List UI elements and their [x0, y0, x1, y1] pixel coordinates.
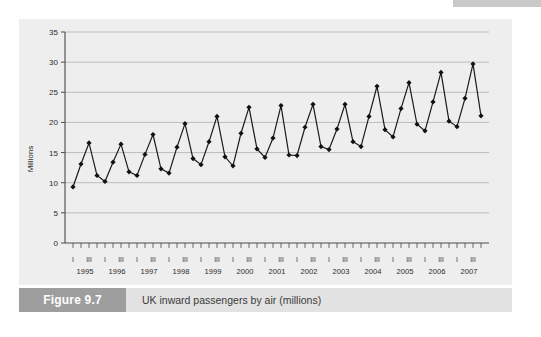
svg-text:I: I: [360, 256, 362, 263]
data-series-markers: [70, 61, 483, 189]
svg-text:III: III: [246, 256, 252, 263]
svg-text:III: III: [86, 256, 92, 263]
svg-text:III: III: [214, 256, 220, 263]
svg-text:20: 20: [49, 118, 58, 127]
svg-text:III: III: [470, 256, 476, 263]
svg-text:I: I: [136, 256, 138, 263]
svg-text:0: 0: [54, 239, 59, 248]
chart-plot-panel: 05101520253035 Millions IIIIIIIIIIIIIIII…: [19, 19, 512, 285]
svg-text:2002: 2002: [301, 267, 318, 276]
svg-text:2005: 2005: [397, 267, 414, 276]
svg-text:I: I: [232, 256, 234, 263]
svg-text:15: 15: [49, 149, 58, 158]
svg-text:2001: 2001: [269, 267, 286, 276]
svg-text:III: III: [278, 256, 284, 263]
svg-text:1997: 1997: [141, 267, 158, 276]
svg-text:1995: 1995: [77, 267, 94, 276]
svg-text:III: III: [438, 256, 444, 263]
y-axis-tick-labels: 05101520253035: [49, 28, 58, 248]
svg-text:10: 10: [49, 179, 58, 188]
svg-text:I: I: [424, 256, 426, 263]
svg-text:I: I: [168, 256, 170, 263]
x-axis-quarter-labels: IIIIIIIIIIIIIIIIIIIIIIIIIIIIIIIIIIIIIIII…: [72, 256, 476, 263]
figure-block: 05101520253035 Millions IIIIIIIIIIIIIIII…: [19, 19, 512, 317]
svg-text:III: III: [342, 256, 348, 263]
x-axis-year-labels: 1995199619971998199920002001200220032004…: [77, 267, 478, 276]
figure-caption-text: UK inward passengers by air (millions): [126, 288, 512, 312]
data-series-line: [73, 64, 481, 187]
svg-text:2003: 2003: [333, 267, 350, 276]
svg-text:I: I: [328, 256, 330, 263]
svg-text:I: I: [104, 256, 106, 263]
svg-text:III: III: [374, 256, 380, 263]
svg-text:1999: 1999: [205, 267, 222, 276]
svg-text:5: 5: [54, 209, 59, 218]
svg-text:I: I: [200, 256, 202, 263]
svg-text:2004: 2004: [365, 267, 382, 276]
svg-text:III: III: [310, 256, 316, 263]
figure-caption-bar: Figure 9.7 UK inward passengers by air (…: [19, 288, 512, 312]
y-axis-title: Millions: [26, 146, 35, 173]
svg-text:25: 25: [49, 88, 58, 97]
svg-text:2000: 2000: [237, 267, 254, 276]
x-axis-quarter-ticks: [73, 243, 481, 248]
line-chart: 05101520253035 Millions IIIIIIIIIIIIIIII…: [19, 19, 512, 285]
y-axis-ticks: [61, 32, 65, 243]
svg-text:III: III: [150, 256, 156, 263]
top-edge-tab: [453, 0, 541, 7]
svg-text:III: III: [118, 256, 124, 263]
figure-number-tag: Figure 9.7: [19, 288, 126, 312]
svg-text:1998: 1998: [173, 267, 190, 276]
svg-text:30: 30: [49, 58, 58, 67]
svg-text:III: III: [406, 256, 412, 263]
svg-text:I: I: [456, 256, 458, 263]
svg-text:I: I: [392, 256, 394, 263]
svg-text:I: I: [264, 256, 266, 263]
svg-text:2006: 2006: [429, 267, 446, 276]
svg-text:1996: 1996: [109, 267, 126, 276]
svg-text:I: I: [296, 256, 298, 263]
svg-text:35: 35: [49, 28, 58, 37]
svg-text:I: I: [72, 256, 74, 263]
svg-text:2007: 2007: [461, 267, 478, 276]
svg-text:III: III: [182, 256, 188, 263]
